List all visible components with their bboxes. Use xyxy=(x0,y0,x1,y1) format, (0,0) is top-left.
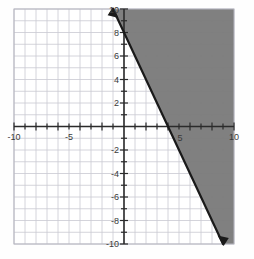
x-label-pos10: 10 xyxy=(229,132,239,142)
x-label-pos5: 5 xyxy=(177,133,182,143)
y-label-10: 10 xyxy=(109,5,119,15)
y-label-4: 4 xyxy=(114,75,119,85)
x-label-neg5: -5 xyxy=(65,132,73,142)
coordinate-graph: -10 -5 5 10 10 8 6 4 2 -2 -4 -6 -8 -10 xyxy=(0,0,254,259)
y-label-neg8: -8 xyxy=(111,216,119,226)
plot-area: -10 -5 5 10 10 8 6 4 2 -2 -4 -6 -8 -10 xyxy=(0,0,254,259)
y-label-2: 2 xyxy=(114,98,119,108)
y-label-6: 6 xyxy=(114,51,119,61)
y-label-8: 8 xyxy=(114,28,119,38)
x-label-neg10: -10 xyxy=(7,132,20,142)
y-label-neg4: -4 xyxy=(111,169,119,179)
y-label-neg2: -2 xyxy=(111,145,119,155)
y-label-neg6: -6 xyxy=(111,192,119,202)
y-label-neg10: -10 xyxy=(106,239,119,249)
